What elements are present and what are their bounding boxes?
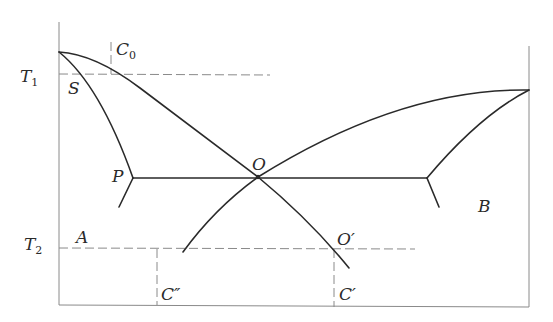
label-s: S <box>68 78 80 98</box>
label-t1: T1 <box>20 66 38 89</box>
label-c0: C0 <box>116 39 136 62</box>
right-lower-branch <box>427 178 439 207</box>
label-b: B <box>477 196 491 216</box>
bottom-axis <box>59 305 529 307</box>
solidus-curve-left <box>59 52 133 178</box>
label-a: A <box>74 227 88 247</box>
liquidus-curve-left <box>59 52 349 268</box>
label-o: O <box>252 154 266 174</box>
eutectic-point-o <box>256 175 260 179</box>
label-c-double-prime: C″ <box>161 284 181 304</box>
phase-diagram: T1 C0 S P O B T2 A O′ C″ C′ <box>0 0 553 322</box>
label-o-prime: O′ <box>337 229 355 249</box>
t2-isotherm <box>59 248 415 249</box>
label-p: P <box>111 166 124 186</box>
label-t2: T2 <box>24 234 42 257</box>
label-c-prime: C′ <box>339 284 356 304</box>
solidus-curve-right <box>427 90 529 178</box>
t1-isotherm <box>59 74 270 75</box>
liquidus-curve-right <box>183 90 529 252</box>
